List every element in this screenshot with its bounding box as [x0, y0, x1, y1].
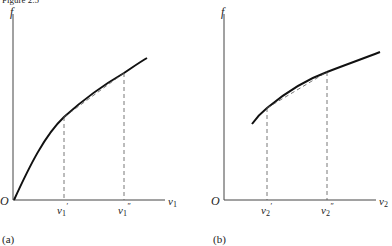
caption-b: (b) [213, 233, 226, 246]
figure-canvas: Figure 2.5 f O v1 v1′ v1″ (a) f O v2 v2′… [0, 0, 392, 246]
chord-a [64, 73, 124, 117]
curve-b [252, 52, 380, 124]
chord-b [267, 72, 327, 108]
tick-v2prime: v2′ [261, 202, 272, 218]
tick-v1doubleprime: v1″ [118, 202, 131, 218]
origin-label-b: O [211, 194, 220, 208]
figure-header: Figure 2.5 [2, 0, 39, 5]
x-label-b: v2 [379, 195, 388, 209]
panel-a: f O v1 v1′ v1″ (a) [0, 5, 177, 246]
tick-v1prime: v1′ [57, 202, 68, 218]
origin-label-a: O [0, 194, 9, 208]
tick-v2doubleprime: v2″ [321, 202, 334, 218]
curve-a [14, 58, 147, 200]
panel-b: f O v2 v2′ v2″ (b) [211, 5, 388, 246]
y-label-a: f [10, 5, 15, 19]
x-label-a: v1 [168, 195, 177, 209]
y-label-b: f [221, 5, 226, 19]
caption-a: (a) [2, 233, 15, 246]
